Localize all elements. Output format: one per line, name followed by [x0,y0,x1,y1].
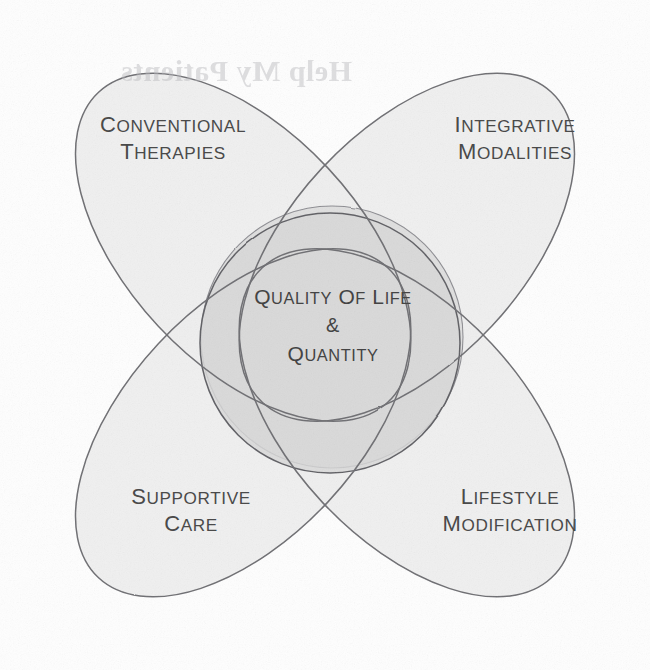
petal-label-line-2: THERAPIES [58,139,288,166]
petal-label-line-1: INTEGRATIVE [402,112,628,139]
petal-label-line-1: CONVENTIONAL [58,112,288,139]
petal-label-line-2: MODALITIES [402,139,628,166]
petal-label-integrative-modalities: INTEGRATIVE MODALITIES [402,112,628,166]
petal-label-supportive-care: SUPPORTIVE CARE [78,484,304,538]
petal-label-line-1: LIFESTYLE [388,484,632,511]
petal-label-conventional-therapies: CONVENTIONAL THERAPIES [58,112,288,166]
petal-label-line-2: CARE [78,511,304,538]
center-label-quality-of-life-quantity: QUALITY OF LIFE & QUANTITY [203,283,463,368]
petal-label-line-1: SUPPORTIVE [78,484,304,511]
petal-label-line-2: MODIFICATION [388,511,632,538]
venn-diagram-figure: Help My Patients CONVENTIONAL THERAPIES … [0,0,650,670]
petal-label-lifestyle-modification: LIFESTYLE MODIFICATION [388,484,632,538]
center-label-line-1: QUALITY OF LIFE [203,283,463,312]
center-label-line-2: QUANTITY [203,340,463,369]
bleed-through-line-2: Help My Patients [121,54,352,88]
center-label-ampersand: & [203,312,463,340]
